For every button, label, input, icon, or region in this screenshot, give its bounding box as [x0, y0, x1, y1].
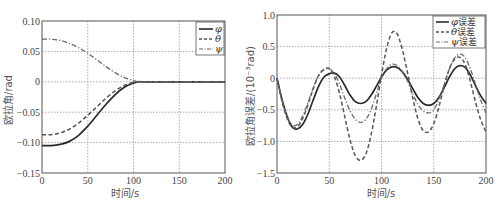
right-x-axis-label: 时间/s: [367, 187, 396, 199]
y-tick-label: −0.10: [17, 137, 40, 148]
x-tick-label: 0: [40, 175, 45, 186]
y-tick-label: −1.5: [257, 168, 275, 179]
left-chart: 0501001502000.100.050−0.05−0.10−0.15 时间/…: [2, 16, 233, 200]
right-chart: 0501001502001.00.50−0.5−1.0−1.5 时间/s 欧拉角…: [244, 10, 494, 200]
y-tick-label: −0.5: [257, 104, 275, 115]
x-tick-label: 150: [426, 175, 441, 186]
left-legend: φ θ ψ: [196, 22, 224, 55]
x-tick-label: 50: [83, 175, 93, 186]
y-tick-label: 0.5: [263, 41, 276, 52]
x-tick-label: 200: [218, 175, 233, 186]
y-tick-label: 0: [35, 76, 40, 87]
x-tick-label: 0: [275, 175, 280, 186]
y-tick-label: 0: [270, 73, 275, 84]
legend-psi-label: ψ: [215, 43, 223, 54]
legend-psi-error-label: ψ误差: [451, 36, 477, 47]
right-y-axis-label: 欧拉角误差/(10⁻³rad): [244, 46, 256, 146]
x-tick-label: 150: [172, 175, 187, 186]
right-legend: φ误差 θ误差 ψ误差: [433, 16, 485, 48]
x-tick-label: 50: [324, 175, 334, 186]
y-tick-label: −0.05: [17, 107, 40, 118]
y-tick-label: 1.0: [263, 10, 276, 21]
y-tick-label: −0.15: [17, 168, 40, 179]
y-tick-label: −1.0: [257, 136, 275, 147]
y-tick-label: 0.05: [23, 46, 41, 57]
left-y-axis-label: 欧拉角/rad: [2, 75, 14, 125]
x-tick-label: 100: [126, 175, 141, 186]
y-tick-label: 0.10: [23, 16, 41, 27]
x-tick-label: 100: [374, 175, 389, 186]
x-tick-label: 200: [479, 175, 494, 186]
left-x-axis-label: 时间/s: [111, 187, 140, 199]
chart-canvas: 0501001502000.100.050−0.05−0.10−0.15 时间/…: [0, 0, 502, 204]
